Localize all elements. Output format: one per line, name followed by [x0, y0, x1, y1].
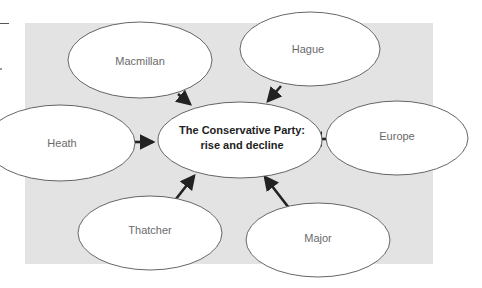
node-label-heath: Heath — [47, 137, 76, 149]
arrow-hague — [268, 86, 281, 101]
node-label-hague: Hague — [292, 43, 324, 55]
center-topic: The Conservative Party: rise and decline — [179, 123, 305, 153]
center-topic-line1: The Conservative Party: — [179, 123, 305, 138]
node-label-europe: Europe — [379, 130, 414, 142]
arrow-thatcher — [176, 176, 194, 199]
arrow-macmillan — [178, 94, 190, 104]
arrow-major — [265, 177, 289, 208]
node-label-major: Major — [304, 232, 332, 244]
diagram-canvas: Macmillan Hague Heath Europe Thatcher Ma… — [0, 0, 482, 288]
center-topic-line2: rise and decline — [179, 138, 305, 153]
node-label-thatcher: Thatcher — [128, 224, 171, 236]
node-label-macmillan: Macmillan — [115, 55, 165, 67]
